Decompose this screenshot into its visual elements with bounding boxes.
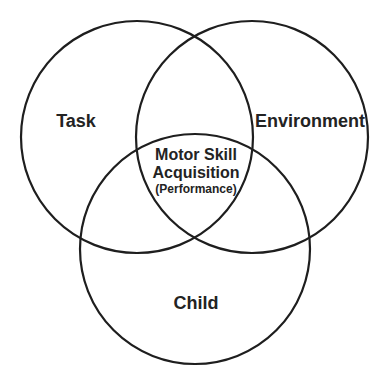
intersection-label-line2: Acquisition [152,164,239,181]
intersection-label-line1: Motor Skill [155,146,237,163]
environment-label: Environment [255,111,365,131]
task-label: Task [56,111,97,131]
intersection-label-line3: (Performance) [155,182,236,196]
child-label: Child [174,293,219,313]
venn-diagram: Task Environment Child Motor Skill Acqui… [0,0,387,381]
